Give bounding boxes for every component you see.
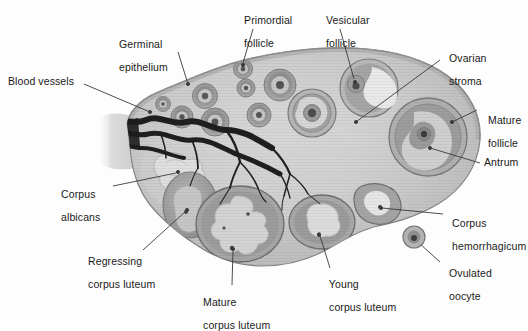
label-primordial-follicle-line1: Primordial [244, 14, 292, 26]
label-mature-corpus-luteum-line2: corpus luteum [203, 319, 270, 331]
label-young-corpus-luteum-line2: corpus luteum [329, 301, 396, 313]
label-vesicular-follicle: Vesicular follicle [320, 3, 370, 49]
label-mature-follicle-line1: Mature [488, 114, 521, 126]
label-ovulated-oocyte-line1: Ovulated [449, 267, 492, 279]
label-ovulated-oocyte: Ovulated oocyte [443, 256, 492, 302]
leader-germinal-epithelium [178, 52, 188, 84]
label-ovulated-oocyte-line2: oocyte [449, 290, 481, 302]
label-young-corpus-luteum-line1: Young [329, 278, 359, 290]
label-regressing-corpus-luteum-line2: corpus luteum [88, 278, 155, 290]
leader-blood-vessels [84, 84, 150, 112]
leader-ovulated-oocyte [419, 243, 440, 262]
label-corpus-albicans: Corpus albicans [55, 177, 100, 223]
label-primordial-follicle: Primordial follicle [238, 3, 292, 49]
label-regressing-corpus-luteum-line1: Regressing [88, 255, 142, 267]
label-primordial-follicle-line2: follicle [244, 37, 274, 49]
label-regressing-corpus-luteum: Regressing corpus luteum [82, 244, 155, 290]
label-mature-corpus-luteum-line1: Mature [203, 296, 236, 308]
label-mature-follicle: Mature follicle [482, 103, 521, 149]
label-blood-vessels: Blood vessels [8, 76, 74, 88]
label-vesicular-follicle-line2: follicle [326, 37, 356, 49]
label-young-corpus-luteum: Young corpus luteum [323, 267, 396, 313]
label-germinal-epithelium: Germinal epithelium [113, 27, 168, 73]
label-corpus-hemorrhagicum-line2: hemorrhagicum [452, 240, 526, 252]
label-corpus-hemorrhagicum: Corpus hemorrhagicum [446, 206, 526, 252]
label-corpus-albicans-line2: albicans [61, 211, 100, 223]
label-ovarian-stroma-line1: Ovarian [449, 52, 486, 64]
label-ovarian-stroma-line2: stroma [449, 75, 482, 87]
label-germinal-epithelium-line1: Germinal [119, 38, 162, 50]
label-corpus-hemorrhagicum-line1: Corpus [452, 217, 486, 229]
label-antrum: Antrum [484, 157, 518, 169]
label-vesicular-follicle-line1: Vesicular [326, 14, 370, 26]
label-mature-corpus-luteum: Mature corpus luteum [197, 285, 270, 331]
label-mature-follicle-line2: follicle [488, 137, 518, 149]
ovulated-oocyte [403, 226, 425, 248]
label-ovarian-stroma: Ovarian stroma [443, 41, 487, 87]
label-corpus-albicans-line1: Corpus [61, 188, 95, 200]
label-germinal-epithelium-line2: epithelium [119, 61, 168, 73]
